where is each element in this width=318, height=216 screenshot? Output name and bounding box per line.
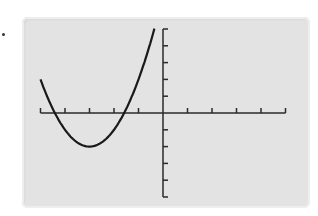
parabola-curve — [41, 29, 155, 147]
graph-plot — [0, 0, 318, 216]
axes — [41, 29, 286, 197]
